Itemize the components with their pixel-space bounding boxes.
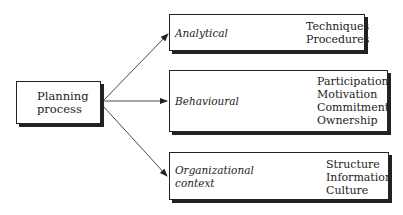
organizational-label-line1: Organizational bbox=[175, 164, 254, 177]
organizational-label-line2: context bbox=[175, 177, 254, 190]
analytical-label: Analytical bbox=[175, 27, 228, 40]
behavioural-item: Commitment bbox=[317, 101, 389, 114]
behavioural-item: Participation bbox=[317, 75, 389, 88]
organizational-item: Information bbox=[326, 171, 392, 184]
analytical-item: Procedures bbox=[306, 33, 370, 46]
behavioural-item: Motivation bbox=[317, 88, 389, 101]
organizational-item: Culture bbox=[326, 184, 392, 197]
arrow-to-analytical bbox=[103, 34, 168, 101]
planning-process-label-line2: process bbox=[37, 103, 89, 116]
behavioural-label: Behavioural bbox=[175, 95, 239, 108]
organizational-item: Structure bbox=[326, 158, 392, 171]
organizational-context-box: Organizational context Structure Informa… bbox=[169, 152, 389, 200]
behavioural-item: Ownership bbox=[317, 114, 389, 127]
analytical-item: Techniques bbox=[306, 20, 370, 33]
arrow-to-organizational bbox=[103, 106, 167, 176]
behavioural-box: Behavioural Participation Motivation Com… bbox=[169, 70, 388, 132]
planning-process-box: Planning process bbox=[16, 81, 101, 124]
analytical-box: Analytical Techniques Procedures bbox=[169, 14, 365, 51]
